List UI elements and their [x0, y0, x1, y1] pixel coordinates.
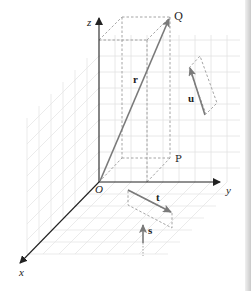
- x-axis-label: x: [18, 266, 24, 278]
- y-axis-label: y: [225, 184, 231, 196]
- z-axis-label: z: [86, 16, 92, 28]
- axes: [20, 18, 220, 263]
- vector-r: [100, 19, 169, 181]
- yz-plane-grid: [99, 35, 240, 182]
- vector-u-label: u: [188, 92, 194, 104]
- page-edge-shadow: [245, 0, 251, 291]
- vector-diagram: z y x O Q P r u t s: [0, 0, 251, 291]
- vector-s-label: s: [148, 224, 153, 236]
- u-bounding-box: [189, 56, 217, 114]
- vector-t: [128, 190, 171, 212]
- vector-t-label: t: [156, 191, 160, 203]
- point-p-label: P: [175, 153, 182, 164]
- vector-r-label: r: [133, 73, 138, 85]
- x-axis: [20, 182, 99, 263]
- vectors: [100, 19, 205, 243]
- point-q-label: Q: [174, 10, 183, 23]
- xy-plane-grid: [27, 182, 228, 254]
- origin-label: O: [95, 183, 103, 195]
